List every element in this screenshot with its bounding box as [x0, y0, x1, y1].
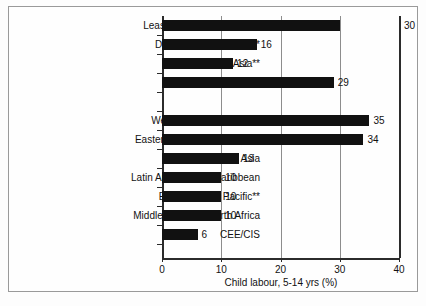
bar-value-label: 10	[225, 210, 236, 221]
bar-value-label: 16	[261, 39, 272, 50]
bar-value-label: 35	[373, 115, 384, 126]
category-label: CEE/CIS	[220, 229, 260, 241]
bar-value-label: 10	[225, 172, 236, 183]
x-tick-label-0: 0	[159, 264, 165, 275]
y-tick-mark	[157, 54, 162, 55]
chart-figure: 010203040 Least developed countries30Dev…	[0, 0, 426, 306]
bar	[162, 172, 221, 183]
x-tick-mark-0	[162, 258, 163, 262]
x-tick-mark-10	[221, 258, 222, 262]
x-tick-label-10: 10	[216, 264, 227, 275]
x-tick-label-30: 30	[334, 264, 345, 275]
y-tick-mark	[157, 130, 162, 131]
y-tick-mark	[157, 35, 162, 36]
x-tick-mark-40	[399, 258, 400, 262]
x-tick-mark-20	[281, 258, 282, 262]
bar-value-label: 6	[202, 229, 208, 240]
bar-value-label: 29	[338, 77, 349, 88]
x-tick-label-20: 20	[275, 264, 286, 275]
y-tick-mark	[157, 92, 162, 93]
bar	[162, 134, 363, 145]
x-tick-label-40: 40	[393, 264, 404, 275]
bar	[162, 191, 221, 202]
bar-value-label: 12	[237, 58, 248, 69]
bar	[162, 153, 239, 164]
bar-value-label: 10	[225, 191, 236, 202]
y-tick-mark	[157, 168, 162, 169]
y-tick-mark	[157, 244, 162, 245]
bar	[162, 210, 221, 221]
y-tick-mark	[157, 111, 162, 112]
gridline-40	[399, 16, 401, 258]
bar	[162, 77, 334, 88]
y-tick-mark	[157, 149, 162, 150]
y-tick-mark	[157, 187, 162, 188]
bar-value-label: 30	[404, 20, 415, 31]
bar	[162, 20, 340, 31]
y-tick-mark	[157, 225, 162, 226]
bar	[162, 39, 257, 50]
y-tick-mark	[157, 206, 162, 207]
bar-value-label: 13	[243, 153, 254, 164]
bar-value-label: 34	[367, 134, 378, 145]
x-axis-title: Child labour, 5-14 yrs (%)	[162, 277, 400, 288]
bar	[162, 115, 369, 126]
y-tick-mark	[157, 73, 162, 74]
bar	[162, 229, 198, 240]
x-tick-mark-30	[340, 258, 341, 262]
bar	[162, 58, 233, 69]
